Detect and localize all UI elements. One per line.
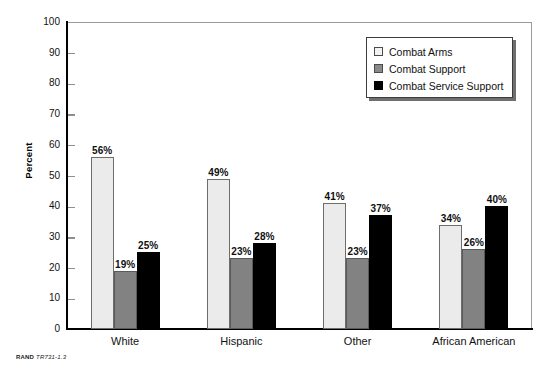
- bar-value-label: 37%: [371, 203, 391, 214]
- bar-value-label: 40%: [487, 194, 507, 205]
- y-axis-tick-label: 90: [26, 48, 60, 58]
- legend-swatch-combat-support: [374, 64, 383, 73]
- chart-figure: Percent 1009080706050403020100 56%19%25%…: [0, 0, 559, 371]
- bar-value-label: 26%: [464, 237, 484, 248]
- x-axis-category-label: Other: [344, 334, 372, 348]
- bar[interactable]: 23%: [230, 258, 253, 329]
- bar-value-label: 41%: [325, 191, 345, 202]
- y-axis-tick-label: 10: [26, 293, 60, 303]
- source-figure-id: TR731-1.3: [36, 354, 66, 360]
- x-axis-category-label: White: [111, 334, 139, 348]
- y-axis-tick-label: 80: [26, 78, 60, 88]
- y-axis-tick-label: 40: [26, 201, 60, 211]
- bar-group: 49%23%28%: [207, 22, 276, 329]
- bar[interactable]: 23%: [346, 258, 369, 329]
- bar-value-label: 34%: [441, 213, 461, 224]
- bar[interactable]: 34%: [439, 225, 462, 329]
- legend-item[interactable]: Combat Support: [374, 60, 505, 77]
- bar-value-label: 23%: [231, 246, 251, 257]
- y-axis-tick-label: 70: [26, 109, 60, 119]
- legend-item-label: Combat Support: [389, 63, 465, 75]
- legend-item-label: Combat Service Support: [389, 80, 503, 92]
- bar-group: 56%19%25%: [91, 22, 160, 329]
- y-axis-tick-label: 30: [26, 232, 60, 242]
- bar[interactable]: 41%: [323, 203, 346, 329]
- bar-value-label: 28%: [254, 231, 274, 242]
- bar[interactable]: 56%: [91, 157, 114, 329]
- bar-value-label: 25%: [138, 240, 158, 251]
- bar-value-label: 19%: [115, 259, 135, 270]
- bar-value-label: 23%: [348, 246, 368, 257]
- y-axis-tick-label: 60: [26, 140, 60, 150]
- y-axis-tick-label: 0: [26, 324, 60, 334]
- bar[interactable]: 25%: [137, 252, 160, 329]
- bar[interactable]: 19%: [114, 271, 137, 329]
- source-caption: RAND TR731-1.3: [16, 353, 66, 361]
- bar[interactable]: 28%: [253, 243, 276, 329]
- legend-swatch-combat-service-support: [374, 81, 383, 90]
- source-organization: RAND: [16, 354, 34, 360]
- legend-swatch-combat-arms: [374, 47, 383, 56]
- chart-legend: Combat ArmsCombat SupportCombat Service …: [366, 37, 513, 98]
- y-axis-tick-labels: 1009080706050403020100: [26, 22, 60, 329]
- bar[interactable]: 49%: [207, 179, 230, 329]
- x-axis-category-labels: WhiteHispanicOtherAfrican American: [67, 334, 532, 354]
- y-axis-tick-label: 100: [26, 17, 60, 27]
- bar[interactable]: 40%: [485, 206, 508, 329]
- y-axis-tick-label: 20: [26, 263, 60, 273]
- bar-value-label: 56%: [92, 145, 112, 156]
- bar[interactable]: 26%: [462, 249, 485, 329]
- bar-value-label: 49%: [208, 167, 228, 178]
- legend-item[interactable]: Combat Arms: [374, 43, 505, 60]
- legend-item[interactable]: Combat Service Support: [374, 77, 505, 94]
- legend-item-label: Combat Arms: [389, 46, 453, 58]
- y-axis-tick-label: 50: [26, 171, 60, 181]
- x-axis-category-label: Hispanic: [220, 334, 262, 348]
- bar[interactable]: 37%: [369, 215, 392, 329]
- x-axis-category-label: African American: [432, 334, 515, 348]
